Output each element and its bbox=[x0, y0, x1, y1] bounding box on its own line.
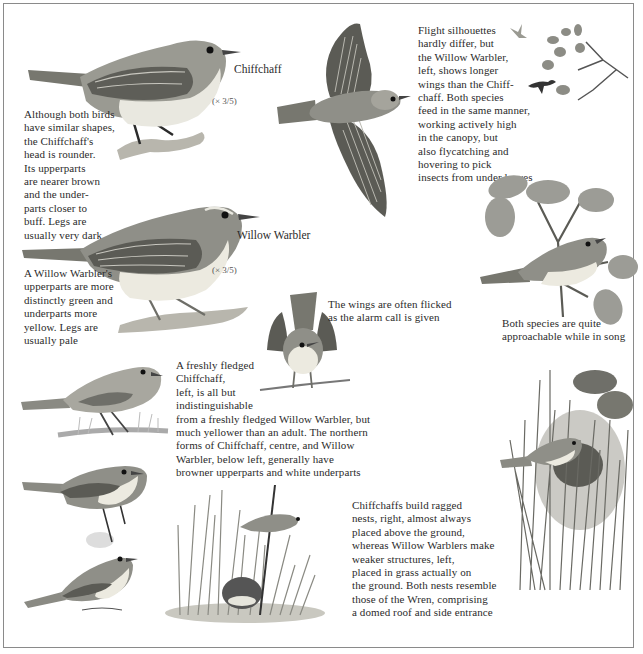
chiffchaff-nest-illustration bbox=[500, 360, 635, 595]
singing-bird-illustration bbox=[478, 172, 638, 322]
flight-silhouettes-illustration bbox=[508, 20, 638, 110]
scale-willow-warbler: (× 3/5) bbox=[212, 265, 237, 275]
caption-alarm: The wings are often flicked as the alarm… bbox=[328, 298, 452, 325]
northern-chiffchaff-illustration bbox=[20, 462, 150, 552]
northern-willow-warbler-illustration bbox=[22, 550, 142, 615]
scale-chiffchaff: (× 3/5) bbox=[212, 96, 237, 106]
caption-fledged: A freshly fledged Chiffchaff, left, is a… bbox=[176, 359, 370, 480]
willow-warbler-nest-illustration bbox=[160, 475, 335, 625]
fledged-chiffchaff-illustration bbox=[18, 360, 178, 440]
label-willow-warbler: Willow Warbler bbox=[237, 229, 310, 241]
caption-nests: Chiffchaffs build ragged nests, right, a… bbox=[352, 499, 497, 620]
caption-willow-warbler: A Willow Warbler's upperparts are more d… bbox=[24, 267, 114, 347]
caption-song: Both species are quite approachable whil… bbox=[502, 317, 625, 344]
flying-warbler-illustration bbox=[275, 22, 415, 217]
